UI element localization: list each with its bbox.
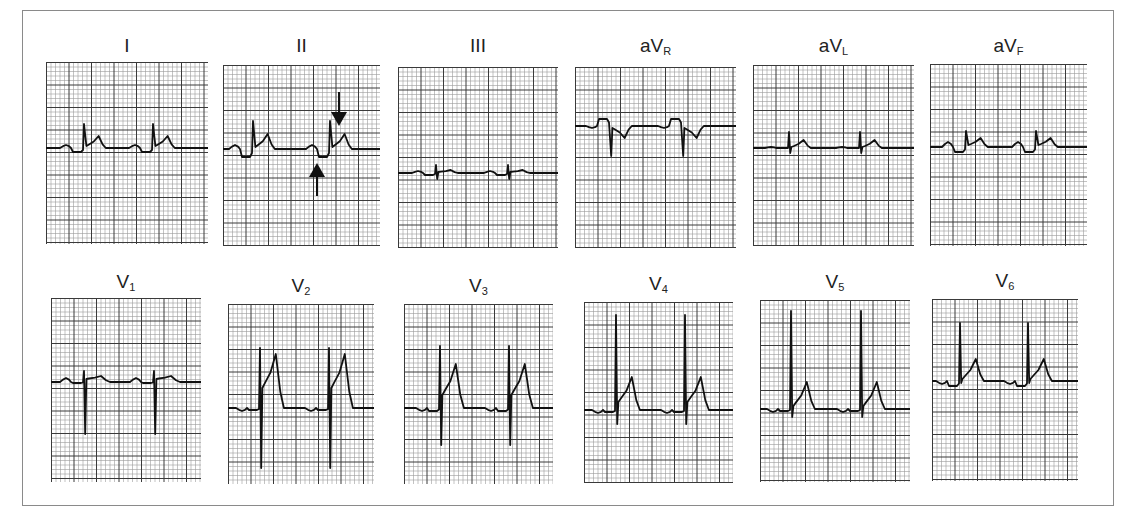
ecg-strip-ii [223, 65, 380, 246]
lead-label-text: III [470, 35, 486, 56]
lead-label-v3: V3 [399, 276, 559, 301]
lead-label-v5: V5 [755, 272, 915, 297]
lead-label-subscript: L [842, 45, 848, 57]
ecg-strip-i [46, 62, 208, 244]
ecg-strip-avf [930, 64, 1087, 246]
arrow-up-icon [307, 161, 327, 198]
lead-label-avl: aVL [754, 36, 914, 61]
lead-label-text: aV [819, 35, 842, 56]
lead-label-avr: aVR [576, 36, 736, 61]
lead-label-text: aV [994, 35, 1017, 56]
lead-label-v4: V4 [579, 274, 739, 299]
lead-label-subscript: 6 [1008, 280, 1014, 292]
lead-label-text: I [124, 35, 129, 56]
lead-label-subscript: R [663, 45, 671, 57]
ecg-strip-avl [753, 65, 914, 246]
lead-label-avf: aVF [929, 36, 1089, 61]
lead-label-text: V [996, 270, 1009, 291]
lead-label-text: V [469, 275, 482, 296]
ecg-strip-v4 [584, 302, 733, 483]
ecg-strip-v3 [404, 304, 553, 484]
lead-label-text: aV [640, 35, 663, 56]
ecg-strip-v1 [51, 298, 201, 482]
ecg-strip-v6 [932, 299, 1078, 481]
arrow-down-icon [329, 90, 349, 128]
ecg-strip-v2 [228, 304, 374, 484]
lead-label-text: V [292, 275, 305, 296]
lead-label-i: I [47, 36, 207, 56]
lead-label-subscript: 4 [662, 283, 668, 295]
ecg-strip-iii [398, 67, 558, 248]
lead-label-v1: V1 [46, 272, 206, 297]
lead-label-subscript: 1 [129, 281, 135, 293]
lead-label-subscript: F [1017, 45, 1024, 57]
ecg-strip-avr [575, 67, 736, 248]
lead-label-text: V [826, 271, 839, 292]
lead-label-subscript: 5 [838, 281, 844, 293]
lead-label-subscript: 2 [304, 285, 310, 297]
lead-label-iii: III [398, 36, 558, 56]
lead-label-v6: V6 [925, 271, 1085, 296]
lead-label-v2: V2 [221, 276, 381, 301]
ecg-strip-v5 [760, 300, 910, 482]
lead-label-text: V [649, 273, 662, 294]
lead-label-ii: II [222, 36, 382, 56]
lead-label-text: V [117, 271, 130, 292]
lead-label-subscript: 3 [482, 285, 488, 297]
lead-label-text: II [296, 35, 307, 56]
